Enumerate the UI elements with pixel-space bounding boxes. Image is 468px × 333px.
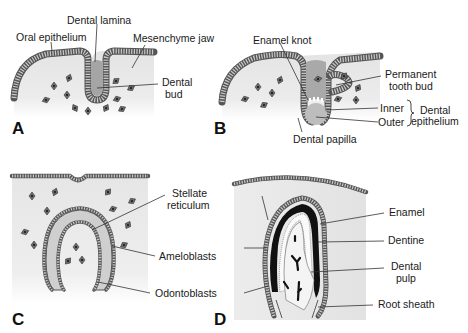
tooth-development-figure: Oral epithelium Dental lamina Mesenchyme… [0,0,468,333]
panel-letter-d: D [214,310,226,329]
label-mesenchyme-jaw: Mesenchyme jaw [133,32,215,44]
label-permanent-tooth-bud-1: Permanent [385,68,436,80]
dental-bud [91,60,103,96]
label-enamel-knot: Enamel knot [253,34,311,46]
label-outer: Outer [378,116,405,128]
label-stellate-reticulum-1: Stellate [172,187,207,199]
panel-letter-b: B [214,119,226,138]
label-enamel: Enamel [389,206,425,218]
label-dental-papilla: Dental papilla [293,133,357,145]
label-dental-pulp-1: Dental [391,260,421,272]
label-oral-epithelium: Oral epithelium [16,31,87,43]
label-dental-epithelium-2: epithelium [411,115,459,127]
label-inner: Inner [380,102,404,114]
panel-d: Enamel Dentine Dental pulp Root sheath D [214,177,435,329]
label-dental-bud-1: Dental [162,76,192,88]
label-ameloblasts: Ameloblasts [159,250,216,262]
label-dentine: Dentine [388,234,424,246]
label-root-sheath: Root sheath [378,298,435,310]
panel-a: Oral epithelium Dental lamina Mesenchyme… [12,14,215,138]
label-dental-pulp-2: pulp [396,272,416,284]
label-stellate-reticulum-2: reticulum [167,199,210,211]
label-dental-lamina: Dental lamina [67,14,131,26]
panel-letter-a: A [12,119,24,138]
panel-letter-c: C [12,310,24,329]
dental-papilla [305,103,327,125]
label-dental-bud-2: bud [165,88,183,100]
panel-c: Stellate reticulum Ameloblasts Odontobla… [12,176,217,329]
label-permanent-tooth-bud-2: tooth bud [389,80,433,92]
panel-b: Enamel knot Permanent tooth bud Inner Ou… [214,34,459,145]
label-odontoblasts: Odontoblasts [155,287,217,299]
